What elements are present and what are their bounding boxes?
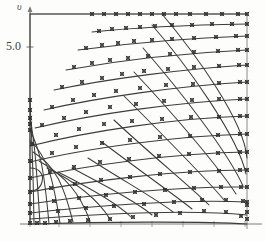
curvilinear-grid-svg bbox=[0, 0, 265, 242]
y-tick-label-5: 5.0 bbox=[6, 39, 21, 54]
v-axis-label: υ bbox=[17, 1, 22, 12]
figure-canvas: υ 5.0 bbox=[0, 0, 265, 242]
